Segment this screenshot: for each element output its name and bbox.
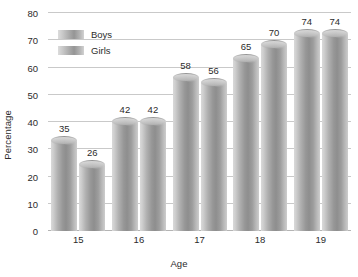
x-tick-label-19: 19 <box>315 234 326 245</box>
x-tick-label-18: 18 <box>255 234 266 245</box>
legend-item-boys[interactable]: Boys <box>58 27 112 41</box>
bar-group-17: 5856 <box>173 13 227 231</box>
bar-value-label: 42 <box>148 104 159 115</box>
cylinder-body <box>140 121 166 231</box>
cylinder-top-highlight <box>113 118 137 125</box>
bar-value-label: 65 <box>241 41 252 52</box>
y-tick-label: 10 <box>27 198 38 209</box>
x-axis-tick-labels: 1516171819 <box>48 234 351 250</box>
bar-girls-19[interactable]: 74 <box>322 29 348 231</box>
bar-girls-16[interactable]: 42 <box>140 117 166 231</box>
y-tick-label: 70 <box>27 35 38 46</box>
cylinder-top-highlight <box>323 30 347 37</box>
bar-boys-15[interactable]: 35 <box>51 136 77 231</box>
bar-value-label: 70 <box>269 27 280 38</box>
y-tick-label: 50 <box>27 89 38 100</box>
bar-girls-18[interactable]: 70 <box>261 40 287 231</box>
bar-value-label: 26 <box>87 147 98 158</box>
bar-girls-15[interactable]: 26 <box>79 160 105 231</box>
cylinder-top-highlight <box>262 41 286 48</box>
legend-swatch-girls <box>58 46 84 55</box>
bar-girls-17[interactable]: 56 <box>201 78 227 231</box>
cylinder-body <box>233 58 259 231</box>
y-tick-label: 80 <box>27 8 38 19</box>
x-tick-label-15: 15 <box>73 234 84 245</box>
bar-group-19: 7474 <box>294 13 348 231</box>
bar-group-18: 6570 <box>233 13 287 231</box>
bar-group-16: 4242 <box>112 13 166 231</box>
y-tick-label: 40 <box>27 117 38 128</box>
bar-value-label: 58 <box>180 60 191 71</box>
cylinder-top-highlight <box>234 55 258 62</box>
y-tick-label: 20 <box>27 171 38 182</box>
bar-boys-17[interactable]: 58 <box>173 73 199 231</box>
x-axis-title: Age <box>0 258 358 269</box>
bar-boys-19[interactable]: 74 <box>294 29 320 231</box>
cylinder-top-highlight <box>52 137 76 144</box>
x-tick-label-16: 16 <box>134 234 145 245</box>
x-tick-label-17: 17 <box>194 234 205 245</box>
bar-boys-18[interactable]: 65 <box>233 54 259 231</box>
y-tick-label: 0 <box>33 226 38 237</box>
bar-boys-16[interactable]: 42 <box>112 117 138 231</box>
cylinder-body <box>261 45 287 231</box>
bar-value-label: 74 <box>301 16 312 27</box>
cylinder-body <box>294 34 320 231</box>
cylinder-top-highlight <box>202 79 226 86</box>
cylinder-top-cap <box>173 73 199 82</box>
cylinder-top-highlight <box>295 30 319 37</box>
bar-chart: Percentage 80706050403020100 35264242585… <box>0 0 358 277</box>
bar-value-label: 74 <box>329 16 340 27</box>
cylinder-body <box>173 77 199 231</box>
cylinder-top-cap <box>112 117 138 126</box>
y-axis-tick-labels: 80706050403020100 <box>0 13 44 231</box>
legend-swatch-boys <box>58 30 84 39</box>
cylinder-top-cap <box>51 136 77 145</box>
cylinder-top-cap <box>140 117 166 126</box>
legend-item-girls[interactable]: Girls <box>58 43 112 57</box>
cylinder-body <box>322 34 348 231</box>
bar-value-label: 42 <box>120 104 131 115</box>
y-tick-label: 30 <box>27 144 38 155</box>
cylinder-body <box>79 165 105 231</box>
bar-value-label: 35 <box>59 123 70 134</box>
cylinder-top-cap <box>233 54 259 63</box>
cylinder-body <box>51 140 77 231</box>
cylinder-top-highlight <box>80 161 104 168</box>
y-tick-label: 60 <box>27 62 38 73</box>
legend-label: Boys <box>91 29 112 40</box>
cylinder-body <box>112 121 138 231</box>
cylinder-top-highlight <box>174 74 198 81</box>
chart-legend: BoysGirls <box>58 27 112 59</box>
cylinder-body <box>201 83 227 231</box>
cylinder-top-highlight <box>141 118 165 125</box>
bar-value-label: 56 <box>208 65 219 76</box>
legend-label: Girls <box>91 45 111 56</box>
